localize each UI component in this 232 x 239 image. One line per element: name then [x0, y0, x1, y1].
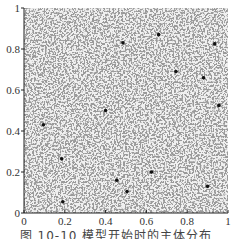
y-tick-label: 0.4 — [6, 125, 20, 137]
data-point — [202, 76, 206, 80]
y-tick-label: 1 — [15, 2, 21, 14]
data-point — [121, 41, 125, 45]
y-tick-label: 0 — [15, 207, 21, 219]
data-point — [206, 185, 210, 189]
data-point — [174, 70, 178, 74]
data-point — [60, 157, 64, 161]
data-point — [42, 123, 46, 127]
data-point — [157, 33, 161, 37]
data-point — [217, 104, 221, 108]
data-point — [104, 109, 108, 113]
y-tick-label: 0.8 — [6, 43, 20, 55]
data-point — [125, 190, 129, 194]
data-point — [115, 178, 119, 182]
data-point — [61, 200, 65, 204]
y-axis-ticks: 00.20.40.60.81 — [6, 2, 24, 219]
plot-area — [24, 8, 228, 213]
speckle-highlights — [24, 8, 228, 213]
data-point — [150, 170, 154, 174]
figure-caption: 图 10-10 模型开始时的主体分布 — [0, 226, 232, 239]
y-tick-label: 0.2 — [6, 166, 20, 178]
scatter-chart: 00.20.40.60.81 00.20.40.60.81 — [0, 0, 232, 239]
y-tick-label: 0.6 — [6, 84, 20, 96]
data-point — [213, 42, 217, 46]
